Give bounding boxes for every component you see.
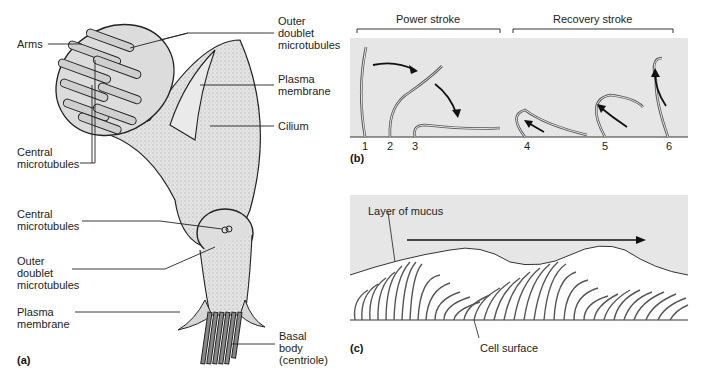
panel-c-tag: (c)	[350, 342, 363, 354]
label-layer-of-mucus: Layer of mucus	[368, 205, 443, 217]
power-stroke-bracket	[357, 29, 500, 33]
label-central-microtubules-top: Central microtubules	[17, 146, 79, 170]
label-outer-doublet-mid: Outer doublet microtubules	[17, 255, 79, 291]
cilia-carpet	[355, 262, 688, 320]
label-cell-surface: Cell surface	[480, 342, 538, 354]
position-4: 4	[524, 140, 530, 152]
basal-body-rods	[201, 312, 242, 364]
position-1: 1	[362, 140, 368, 152]
label-outer-doublet-top: Outer doublet microtubules	[278, 15, 340, 51]
panel-b-tag: (b)	[350, 152, 364, 164]
position-3: 3	[412, 140, 418, 152]
panel-a-tag: (a)	[17, 354, 30, 366]
panel-a-illustration	[0, 0, 701, 376]
recovery-stroke-bracket	[513, 29, 673, 33]
panel-b-background	[350, 38, 688, 137]
label-recovery-stroke: Recovery stroke	[553, 13, 632, 25]
label-central-microtubules-mid: Central microtubules	[17, 208, 79, 232]
label-power-stroke: Power stroke	[396, 13, 460, 25]
position-6: 6	[666, 140, 672, 152]
label-plasma-membrane-top: Plasma membrane	[278, 73, 331, 97]
label-plasma-membrane-bottom: Plasma membrane	[17, 306, 70, 330]
position-5: 5	[602, 140, 608, 152]
position-2: 2	[387, 140, 393, 152]
label-basal-body: Basal body (centriole)	[279, 330, 328, 366]
label-arms: Arms	[17, 38, 43, 50]
label-cilium: Cilium	[278, 120, 309, 132]
